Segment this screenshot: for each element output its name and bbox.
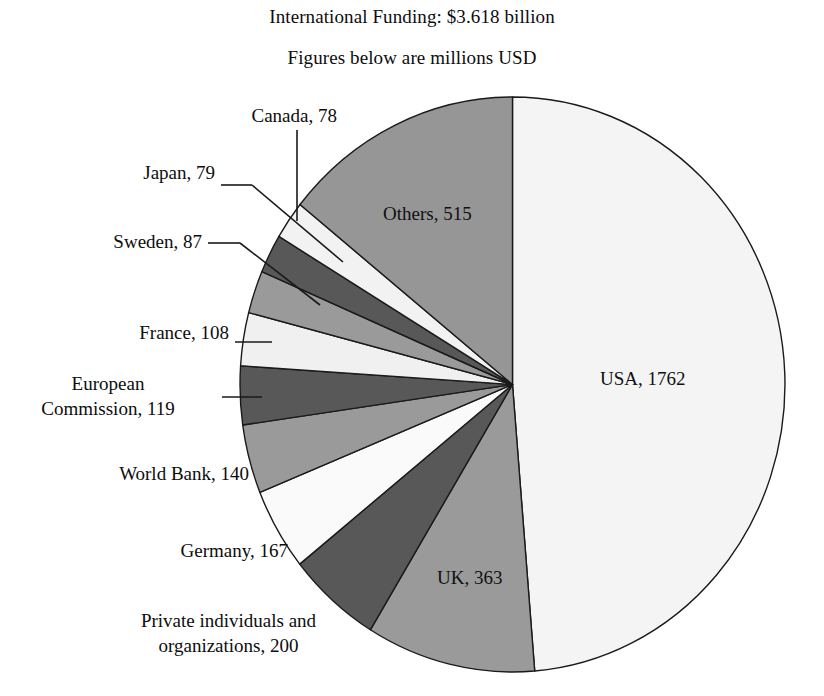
slice-label-france: France, 108 bbox=[0, 320, 229, 345]
slice-label-private-individuals-line1: Private individuals and bbox=[96, 608, 361, 633]
pie-slices bbox=[240, 97, 785, 672]
slice-label-canada: Canada, 78 bbox=[0, 103, 337, 128]
slice-label-others: Others, 515 bbox=[383, 203, 472, 225]
slice-label-japan: Japan, 79 bbox=[0, 160, 215, 185]
slice-label-european-commission-line1: European bbox=[0, 371, 216, 396]
slice-label-uk: UK, 363 bbox=[437, 567, 502, 589]
slice-label-european-commission: European Commission, 119 bbox=[0, 371, 216, 421]
slice-label-sweden: Sweden, 87 bbox=[0, 229, 202, 254]
slice-label-world-bank: World Bank, 140 bbox=[0, 461, 249, 486]
slice-label-private-individuals: Private individuals and organizations, 2… bbox=[96, 608, 361, 658]
slice-label-usa: USA, 1762 bbox=[600, 368, 686, 390]
slice-label-private-individuals-line2: organizations, 200 bbox=[96, 633, 361, 658]
pie-chart-figure: International Funding: $3.618 billion Fi… bbox=[0, 0, 824, 696]
slice-label-european-commission-line2: Commission, 119 bbox=[0, 396, 216, 421]
slice-label-germany: Germany, 167 bbox=[0, 538, 288, 563]
